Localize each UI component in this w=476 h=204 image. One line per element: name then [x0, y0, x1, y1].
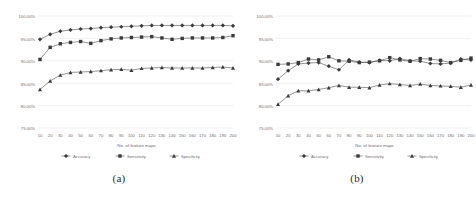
data-point: [317, 58, 320, 61]
data-point: [368, 60, 371, 63]
legend-label: Accuracy: [311, 154, 329, 159]
data-point: [69, 41, 72, 44]
data-point: [38, 58, 41, 61]
series-2: [38, 34, 234, 61]
y-axis-tick-label: 80.00%: [21, 104, 35, 109]
x-axis-tick-label: 140: [407, 133, 415, 138]
data-point: [79, 40, 82, 43]
data-point: [140, 35, 143, 38]
subfigure-b-caption: (b): [238, 172, 476, 184]
data-point: [191, 36, 194, 39]
data-point: [428, 61, 432, 65]
y-axis-tick-label: 100.00%: [18, 14, 35, 19]
data-point: [276, 63, 279, 66]
data-point: [150, 23, 154, 27]
legend-label: Specificity: [181, 154, 201, 159]
x-axis-tick-label: 190: [457, 133, 465, 138]
data-point: [59, 42, 62, 45]
x-axis-tick-label: 10: [276, 133, 281, 138]
data-point: [99, 26, 103, 30]
subfigure-a: 100.00%95.00%90.00%85.00%80.00%75.00%102…: [0, 0, 238, 204]
y-axis-tick-label: 95.00%: [21, 37, 35, 42]
y-axis-tick-label: 90.00%: [259, 59, 273, 64]
legend-label: Specificity: [419, 154, 439, 159]
data-point: [160, 23, 164, 27]
data-point: [418, 82, 422, 86]
y-axis-tick-label: 100.00%: [256, 14, 273, 19]
x-axis-tick-label: 200: [230, 133, 238, 138]
data-point: [398, 58, 401, 61]
y-axis-tick-label: 95.00%: [259, 37, 273, 42]
x-axis: 1020304050607080901001101201301401501601…: [38, 133, 237, 148]
x-axis-title: No. of feature maps: [355, 143, 394, 148]
data-point: [89, 26, 93, 30]
data-point: [307, 57, 310, 60]
x-axis-tick-label: 160: [427, 133, 435, 138]
x-axis-tick-label: 80: [109, 133, 114, 138]
data-point: [221, 23, 225, 27]
x-axis-tick-label: 150: [417, 133, 425, 138]
x-axis-tick-label: 140: [169, 133, 177, 138]
x-axis-tick-label: 120: [386, 133, 394, 138]
x-axis-tick-label: 100: [366, 133, 374, 138]
x-axis-tick-label: 150: [179, 133, 187, 138]
series-1: [38, 23, 235, 41]
x-axis-tick-label: 80: [347, 133, 352, 138]
x-axis-tick-label: 100: [128, 133, 136, 138]
data-point: [337, 59, 340, 62]
data-point: [190, 23, 194, 27]
data-point: [139, 24, 143, 28]
data-point: [201, 36, 204, 39]
data-point: [388, 56, 391, 59]
data-point: [160, 36, 163, 39]
data-point: [469, 83, 473, 87]
y-axis-tick-label: 85.00%: [21, 82, 35, 87]
x-axis-tick-label: 50: [78, 133, 83, 138]
data-point: [358, 61, 361, 64]
data-point: [181, 37, 184, 40]
x-axis-tick-label: 130: [396, 133, 404, 138]
data-point: [286, 62, 289, 65]
y-axis-tick-label: 75.00%: [259, 126, 273, 131]
data-point: [129, 24, 133, 28]
x-axis-title: No. of feature maps: [117, 143, 156, 148]
legend-marker: [302, 154, 306, 158]
x-axis-tick-label: 20: [48, 133, 53, 138]
data-point: [231, 34, 234, 37]
data-point: [429, 57, 432, 60]
legend: AccuracySensitivitySpecificity: [300, 154, 439, 159]
data-point: [48, 32, 52, 36]
y-axis-tick-label: 80.00%: [259, 104, 273, 109]
x-axis-tick-label: 110: [376, 133, 383, 138]
data-point: [180, 23, 184, 27]
data-point: [211, 36, 214, 39]
legend-marker: [64, 154, 68, 158]
x-axis-tick-label: 190: [219, 133, 227, 138]
x-axis-tick-label: 30: [296, 133, 301, 138]
legend-label: Accuracy: [73, 154, 91, 159]
data-point: [150, 35, 153, 38]
y-axis-tick-label: 75.00%: [21, 126, 35, 131]
data-point: [337, 83, 341, 87]
data-point: [120, 36, 123, 39]
data-point: [211, 23, 215, 27]
data-point: [221, 36, 224, 39]
data-point: [469, 56, 472, 59]
data-point: [306, 61, 310, 65]
data-point: [58, 29, 62, 33]
chart-b-plot: 100.00%95.00%90.00%85.00%80.00%75.00%102…: [238, 0, 476, 168]
chart-b-svg: 100.00%95.00%90.00%85.00%80.00%75.00%102…: [238, 0, 476, 168]
series-3: [38, 65, 235, 91]
x-axis-tick-label: 200: [468, 133, 476, 138]
legend-label: Sensitivity: [365, 154, 385, 159]
gridlines: 100.00%95.00%90.00%85.00%80.00%75.00%: [18, 14, 233, 131]
x-axis-tick-label: 10: [38, 133, 43, 138]
data-point: [408, 60, 411, 63]
data-point: [119, 25, 123, 29]
data-point: [347, 60, 350, 63]
subfigure-a-caption: (a): [0, 172, 238, 184]
data-point: [109, 25, 113, 29]
data-point: [419, 57, 422, 60]
data-point: [38, 37, 42, 41]
x-axis-tick-label: 50: [316, 133, 321, 138]
